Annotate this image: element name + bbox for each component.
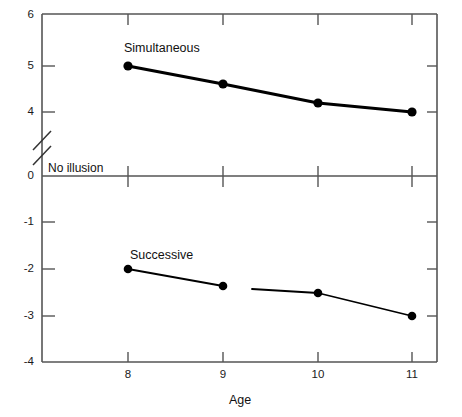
x-tick-label-10: 10	[312, 369, 325, 381]
series-successive	[124, 265, 417, 321]
data-point	[408, 312, 417, 321]
data-point	[407, 107, 416, 116]
series-successive-line-seg1	[128, 269, 223, 286]
x-tick-label-11: 11	[406, 369, 418, 381]
y-tick-label-4: 4	[14, 106, 34, 118]
series-simultaneous	[123, 61, 416, 116]
x-tick-label-8: 8	[125, 369, 131, 381]
y-ticks-upper	[42, 66, 55, 112]
y-ticks-right	[427, 66, 437, 316]
chart-plot-area	[0, 0, 462, 417]
y-tick-label-minus1: -1	[8, 216, 34, 228]
no-illusion-label: No illusion	[48, 162, 103, 174]
series-simultaneous-line	[128, 66, 412, 112]
series-label-simultaneous: Simultaneous	[124, 42, 200, 55]
x-ticks-bottom	[128, 352, 412, 362]
y-tick-label-minus4: -4	[8, 356, 34, 368]
y-tick-label-minus3: -3	[8, 310, 34, 322]
data-point	[124, 265, 133, 274]
x-axis-title: Age	[229, 394, 251, 407]
data-point	[123, 61, 132, 70]
data-point	[218, 79, 227, 88]
chart-figure: 6 5 4 0 -1 -2 -3 -4 8 9 10 11 Simultaneo…	[0, 0, 462, 417]
y-ticks-lower	[42, 222, 55, 316]
data-point	[313, 98, 322, 107]
series-successive-line-seg2	[252, 289, 412, 316]
y-tick-label-6: 6	[14, 9, 34, 21]
x-ticks-top	[128, 14, 412, 25]
axis-frame	[42, 14, 437, 362]
y-tick-label-minus2: -2	[8, 263, 34, 275]
data-point	[314, 289, 323, 298]
x-tick-label-9: 9	[220, 369, 226, 381]
y-tick-label-0: 0	[14, 170, 34, 182]
data-point	[219, 282, 228, 291]
y-tick-label-5: 5	[14, 60, 34, 72]
series-label-successive: Successive	[130, 249, 193, 262]
